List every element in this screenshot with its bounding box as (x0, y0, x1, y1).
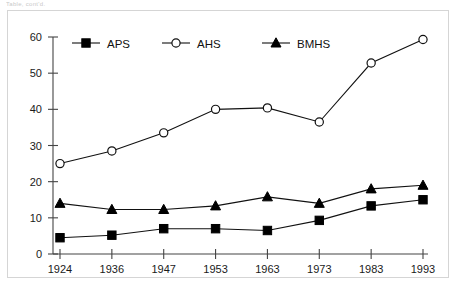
marker-triangle (418, 180, 428, 189)
y-tick-label: 20 (30, 176, 42, 188)
marker-circle (367, 59, 375, 67)
marker-square (160, 224, 168, 232)
line-chart: 0102030405060 19241936194719531963197319… (8, 11, 448, 277)
x-tick-label: 1947 (151, 263, 175, 275)
screenshot-page: Table, cont'd. 0102030405060 19241936194… (0, 0, 457, 288)
marker-circle (263, 104, 271, 112)
series-aps (56, 196, 427, 242)
legend-label: APS (107, 38, 130, 50)
x-tick-label: 1963 (255, 263, 279, 275)
marker-circle (108, 147, 116, 155)
x-tick-label: 1924 (48, 263, 72, 275)
marker-circle (315, 118, 323, 126)
series-layer (55, 35, 428, 241)
chart-legend: APSAHSBMHS (72, 38, 331, 50)
y-tick-label: 10 (30, 212, 42, 224)
x-axis-tick-labels: 19241936194719531963197319831993 (48, 263, 435, 275)
x-tick-label: 1983 (359, 263, 383, 275)
series-ahs (56, 35, 427, 167)
marker-triangle (271, 38, 281, 47)
marker-square (367, 202, 375, 210)
marker-square (315, 216, 323, 224)
y-tick-label: 30 (30, 140, 42, 152)
marker-circle (56, 159, 64, 167)
legend-item-aps[interactable]: APS (72, 38, 130, 50)
marker-square (211, 224, 219, 232)
series-polyline (60, 40, 423, 164)
marker-circle (211, 105, 219, 113)
marker-triangle (55, 198, 65, 207)
y-tick-label: 0 (36, 248, 42, 260)
marker-circle (160, 129, 168, 137)
y-axis-tick-labels: 0102030405060 (30, 31, 42, 260)
x-tick-label: 1936 (100, 263, 124, 275)
marker-square (56, 234, 64, 242)
y-tick-label: 60 (30, 31, 42, 43)
marker-square (82, 39, 90, 47)
legend-item-bmhs[interactable]: BMHS (262, 38, 331, 50)
legend-label: BMHS (297, 38, 331, 50)
x-tick-label: 1973 (307, 263, 331, 275)
marker-square (419, 196, 427, 204)
x-tick-label: 1993 (411, 263, 435, 275)
marker-triangle (262, 192, 272, 201)
marker-square (108, 231, 116, 239)
legend-item-ahs[interactable]: AHS (162, 38, 221, 50)
chart-frame: 0102030405060 19241936194719531963197319… (7, 10, 449, 278)
marker-circle (419, 35, 427, 43)
y-tick-label: 40 (30, 103, 42, 115)
marker-square (263, 226, 271, 234)
y-tick-label: 50 (30, 67, 42, 79)
marker-circle (172, 39, 180, 47)
faint-caption-text: Table, cont'd. (6, 0, 146, 9)
legend-label: AHS (197, 38, 221, 50)
x-tick-label: 1953 (203, 263, 227, 275)
